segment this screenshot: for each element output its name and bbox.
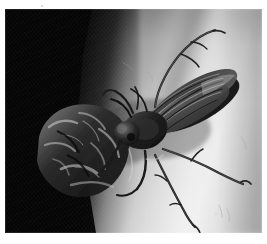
photograph: [5, 9, 262, 233]
dust-speck-1: [232, 205, 234, 207]
insect-layer: [5, 9, 262, 233]
photo-page: [0, 0, 267, 244]
dust-speck-2: [215, 213, 217, 215]
dust-speck-0: [41, 5, 43, 7]
